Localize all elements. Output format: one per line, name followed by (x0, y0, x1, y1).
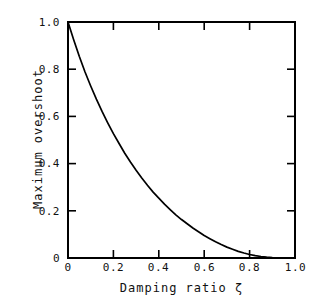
x-tick-label-0-8: 0.8 (231, 261, 268, 274)
overshoot-curve (68, 22, 295, 258)
y-tick-label-1-0: 1.0 (18, 16, 60, 29)
x-axis-ticks (113, 250, 249, 258)
x-tick-label-1-0: 1.0 (277, 261, 314, 274)
y-axis-right-ticks (287, 69, 295, 211)
plot-frame (68, 22, 295, 258)
x-axis-label: Damping ratio ζ (68, 281, 295, 295)
y-axis-ticks (68, 69, 76, 211)
x-tick-label-0-4: 0.4 (140, 261, 177, 274)
x-axis-top-ticks (113, 22, 249, 30)
overshoot-vs-damping-chart: 1.0 0.8 0.6 0.4 0.2 0 0 0.2 0.4 0.6 0.8 … (0, 0, 319, 303)
x-tick-label-0-2: 0.2 (95, 261, 132, 274)
x-tick-label-0: 0 (54, 261, 82, 274)
x-tick-label-0-6: 0.6 (186, 261, 223, 274)
y-axis-label: Maximum overshoot (31, 49, 45, 229)
